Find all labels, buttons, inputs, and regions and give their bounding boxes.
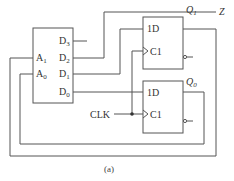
ff1-inverted-output-bubble-icon <box>183 55 186 58</box>
ff1-clk-label: C1 <box>150 46 162 57</box>
figure-caption: (a) <box>104 164 114 174</box>
ff0-q-label: Q0 <box>186 76 197 89</box>
output-z-label: Z <box>219 6 225 17</box>
clk-junction-dot <box>130 112 134 116</box>
ff0-clk-label: C1 <box>150 109 162 120</box>
clk-label: CLK <box>90 109 111 120</box>
circuit-diagram: D3 D2 D1 D0 A1 A0 Z 1D C1 Q1 1D C1 Q0 CL… <box>0 0 234 181</box>
flip-flop-1: 1D C1 Q1 <box>143 4 197 69</box>
flip-flop-0: 1D C1 Q0 <box>143 76 197 133</box>
ff1-d-label: 1D <box>147 23 159 34</box>
ff0-d-label: 1D <box>147 87 159 98</box>
ff0-inverted-output-bubble-icon <box>183 119 186 122</box>
wire-clk-to-ff1 <box>132 51 143 114</box>
ff1-q-label: Q1 <box>186 4 197 17</box>
multiplexer: D3 D2 D1 D0 A1 A0 <box>33 28 73 103</box>
